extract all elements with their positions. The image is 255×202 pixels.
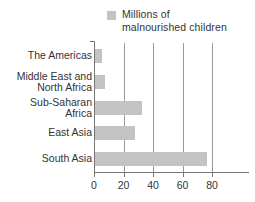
x-tick-60 <box>183 173 184 177</box>
gridline-80 <box>212 43 213 172</box>
x-tick-80 <box>212 173 213 177</box>
legend-label: Millions of malnourished children <box>122 8 227 33</box>
x-tick-label-60: 60 <box>177 179 189 191</box>
x-tick-label-20: 20 <box>118 179 130 191</box>
bar <box>95 101 142 115</box>
category-label: Sub-Saharan Africa <box>30 96 92 119</box>
x-tick-0 <box>94 173 95 177</box>
category-label: South Asia <box>42 153 92 165</box>
bar <box>95 126 135 140</box>
legend-swatch-icon <box>107 11 116 20</box>
bar <box>95 49 102 63</box>
x-tick-label-40: 40 <box>147 179 159 191</box>
x-tick-label-0: 0 <box>91 179 97 191</box>
x-axis-line <box>94 172 249 173</box>
bar <box>95 152 207 166</box>
x-tick-20 <box>124 173 125 177</box>
bar-chart: Millions of malnourished children 020406… <box>0 0 255 202</box>
bar <box>95 75 105 89</box>
x-tick-40 <box>153 173 154 177</box>
chart-legend: Millions of malnourished children <box>107 8 227 33</box>
category-label: East Asia <box>48 128 92 140</box>
category-label: The Americas <box>28 50 92 62</box>
category-label: Middle East and North Africa <box>17 70 92 93</box>
x-tick-label-80: 80 <box>206 179 218 191</box>
